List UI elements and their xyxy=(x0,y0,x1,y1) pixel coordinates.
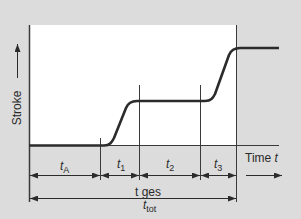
y-axis-label: Stroke xyxy=(10,90,24,125)
x-axis-label: Time t xyxy=(245,151,279,165)
label-total-de: t ges xyxy=(135,185,161,199)
stroke-time-diagram: Stroke Time t tA t1 t2 t3 t ges ttot xyxy=(0,0,301,219)
plot-area xyxy=(29,25,236,145)
